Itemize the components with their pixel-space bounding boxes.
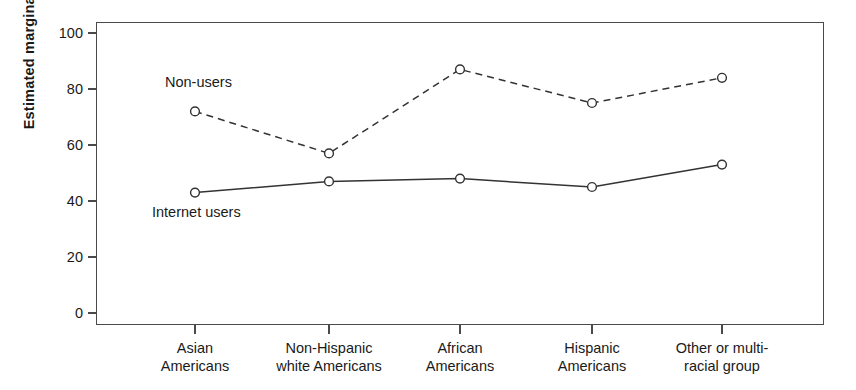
y-tick-60: 60 (0, 145, 96, 146)
plot-area (96, 22, 824, 325)
series-label-non-users: Non-users (165, 74, 232, 90)
y-tick-label: 0 (75, 302, 83, 324)
y-tick-mark (88, 312, 96, 313)
y-tick-mark (88, 32, 96, 33)
y-tick-label: 100 (59, 22, 83, 44)
y-tick-mark (88, 256, 96, 257)
y-tick-mark (88, 144, 96, 145)
y-tick-label: 20 (67, 246, 83, 268)
y-tick-mark (88, 200, 96, 201)
y-tick-80: 80 (0, 89, 96, 90)
y-axis-title: Estimated marginal means (14, 0, 44, 200)
y-tick-label: 80 (67, 78, 83, 100)
y-tick-label: 40 (67, 190, 83, 212)
y-tick-40: 40 (0, 201, 96, 202)
x-tick-mark (328, 325, 329, 334)
y-tick-0: 0 (0, 313, 96, 314)
x-tick-mark (459, 325, 460, 334)
chart-figure: Estimated marginal means 020406080100 As… (0, 0, 856, 390)
x-tick-mark (194, 325, 195, 334)
x-tick-mark (721, 325, 722, 334)
y-tick-label: 60 (67, 134, 83, 156)
x-tick-label: Other or multi- racial group (642, 339, 802, 375)
x-tick-mark (591, 325, 592, 334)
y-tick-mark (88, 88, 96, 89)
y-tick-20: 20 (0, 257, 96, 258)
series-label-internet-users: Internet users (152, 204, 241, 220)
y-tick-100: 100 (0, 33, 96, 34)
